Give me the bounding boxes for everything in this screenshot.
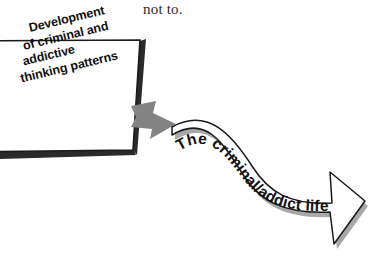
figure-canvas: not to. The criminal/addict life course … (0, 0, 368, 276)
